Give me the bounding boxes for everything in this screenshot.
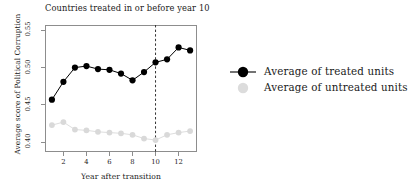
chart-title: Countries treated in or before year 10 [45,3,197,14]
chart-figure: Countries treated in or before year 10 A… [0,0,419,190]
plot-area [45,25,197,152]
y-tick-mark [41,30,45,31]
legend-label-treated: Average of treated units [264,65,394,77]
x-tick-label: 8 [125,158,141,166]
x-tick-label: 6 [101,158,117,166]
y-tick-mark [41,142,45,143]
x-tick-mark [155,152,156,156]
y-tick-label: 0.50 [24,56,32,78]
y-tick-label: 0.40 [24,130,32,152]
x-tick-mark [86,152,87,156]
x-tick-label: 12 [171,158,187,166]
legend-item-treated: Average of treated units [228,64,418,80]
legend-marker-treated [228,64,258,80]
x-axis-label: Year after transition [45,172,197,181]
y-tick-mark [41,67,45,68]
legend-marker-untreated [228,80,258,96]
x-tick-mark [63,152,64,156]
y-axis-label: Average score of Political Corruption [13,25,22,155]
legend-label-untreated: Average of untreated units [264,81,408,93]
chart-legend: Average of treated units Average of untr… [228,64,418,96]
y-tick-label: 0.45 [24,93,32,115]
x-tick-label: 4 [78,158,94,166]
y-tick-label: 0.55 [24,18,32,40]
x-tick-label: 2 [55,158,71,166]
x-tick-mark [178,152,179,156]
legend-item-untreated: Average of untreated units [228,80,418,96]
x-tick-mark [109,152,110,156]
x-tick-label: 10 [148,158,164,166]
x-tick-mark [132,152,133,156]
y-tick-mark [41,104,45,105]
